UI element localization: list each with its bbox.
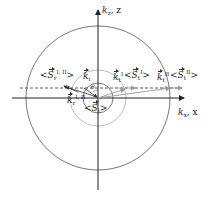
diagram-canvas xyxy=(0,0,207,199)
kz-axis-label: kz, z xyxy=(102,6,121,16)
kx-axis-label: kx, x xyxy=(178,108,198,118)
kt1-vector xyxy=(98,89,125,98)
sr-label: <SrI, II> xyxy=(40,70,74,81)
st2-label: <StII> xyxy=(170,70,198,81)
kt1-label: ktI xyxy=(113,72,123,83)
kt2-label: ktII xyxy=(157,72,169,83)
wavevector-diagram: kz, z kx, x <SrI, II> ki θ ktI <StI> ktI… xyxy=(0,0,207,199)
si-label: <Si> xyxy=(84,104,107,114)
st1-label: <StI> xyxy=(124,70,150,81)
theta-label: θ xyxy=(91,84,95,90)
theta-arc xyxy=(93,90,98,92)
ki-label: ki xyxy=(83,72,90,82)
kt2-vector xyxy=(98,88,170,98)
kr-label: krI, II xyxy=(67,95,85,106)
